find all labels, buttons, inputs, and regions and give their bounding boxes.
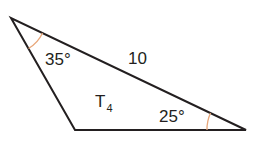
angle-label-25: 25° (159, 108, 185, 125)
angle-arc-35 (29, 33, 43, 49)
triangle-name: T (95, 92, 105, 111)
side-label-10: 10 (128, 50, 147, 67)
angle-arc-25 (207, 113, 211, 130)
triangle-subscript: 4 (106, 102, 112, 114)
triangle-diagram (0, 0, 259, 159)
angle-label-35: 35° (45, 51, 71, 68)
triangle-name-label: T4 (95, 93, 113, 110)
